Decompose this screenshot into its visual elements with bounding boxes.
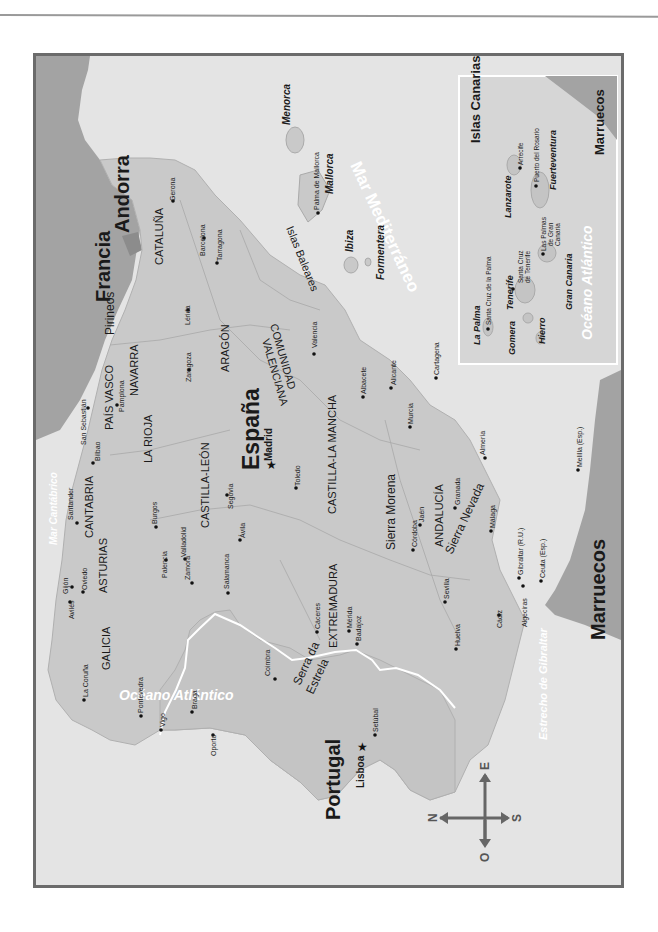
label-cantabria: CANTABRIA bbox=[83, 475, 95, 538]
label-tenerife: Tenerife bbox=[505, 275, 515, 310]
label-la-palma: La Palma bbox=[472, 305, 482, 345]
label-marruecos-inset: Marruecos bbox=[592, 89, 607, 155]
map-frame: ★ ★ Francia Andorra España Portugal Marr… bbox=[33, 53, 624, 888]
page-top-rule bbox=[0, 14, 658, 18]
compass-west-label: O bbox=[478, 853, 492, 862]
label-merida: Mérida bbox=[346, 606, 353, 628]
lisboa-star-icon: ★ bbox=[357, 740, 368, 754]
label-castilla-la-mancha: CASTILLA-LA MANCHA bbox=[326, 394, 338, 514]
label-jaen: Jaén bbox=[418, 507, 425, 522]
label-espana: España bbox=[238, 388, 264, 470]
label-barcelona: Barcelona bbox=[199, 224, 206, 256]
label-lisboa: Lisboa bbox=[355, 755, 366, 788]
label-sierra-morena: Sierra Morena bbox=[384, 474, 398, 550]
label-tarragona: Tarragona bbox=[216, 229, 224, 261]
label-melilla: Melilla (Esp.) bbox=[576, 427, 584, 467]
label-las-palmas-3: Canaria bbox=[554, 223, 561, 246]
label-pirineos: Pirineos bbox=[103, 292, 117, 335]
label-gibraltar: Gibraltar (R.U.) bbox=[517, 528, 525, 575]
label-coimbra: Coimbra bbox=[264, 649, 271, 676]
label-extremadura: EXTREMADURA bbox=[327, 563, 339, 648]
label-malaga: Málaga bbox=[489, 505, 497, 528]
label-arrecife: Arrecife bbox=[517, 142, 524, 165]
label-avila: Ávila bbox=[238, 523, 246, 538]
label-oceano-atlantico-inset: Océano Atlántico bbox=[579, 225, 595, 340]
inset-title: Islas Canarias bbox=[468, 56, 483, 143]
label-zamora: Zamora bbox=[184, 556, 191, 580]
label-portugal: Portugal bbox=[322, 739, 344, 820]
label-toledo: Toledo bbox=[294, 465, 301, 486]
label-zaragoza: Zaragoza bbox=[185, 352, 193, 382]
compass-east-label: E bbox=[478, 762, 492, 770]
label-huelva: Huelva bbox=[454, 624, 461, 646]
map-canvas: ★ ★ Francia Andorra España Portugal Marr… bbox=[36, 56, 621, 885]
label-albacete: Albacete bbox=[360, 367, 367, 394]
label-santa-cruz-palma: Santa Cruz de la Palma bbox=[485, 256, 492, 325]
label-marruecos: Marruecos bbox=[587, 539, 609, 640]
label-granada: Granada bbox=[454, 478, 461, 505]
label-castilla-leon: CASTILLA-LEÓN bbox=[199, 442, 211, 528]
label-oviedo: Oviedo bbox=[81, 568, 88, 590]
label-mar-cantabrico: Mar Cantábrico bbox=[48, 472, 59, 545]
label-estrecho-gibraltar: Estrecho de Gibraltar bbox=[537, 627, 549, 740]
compass-north-label: N bbox=[426, 813, 440, 822]
label-madrid: Madrid bbox=[263, 428, 274, 461]
formentera-island bbox=[365, 258, 371, 266]
label-la-coruna: La Coruña bbox=[82, 664, 89, 697]
label-valladolid: Valladolid bbox=[180, 527, 187, 557]
label-valencia: Valencia bbox=[311, 322, 318, 348]
label-mallorca: Mallorca bbox=[324, 153, 335, 194]
label-murcia: Murcia bbox=[407, 403, 414, 424]
label-lanzarote: Lanzarote bbox=[503, 175, 513, 218]
label-asturias: ASTURIAS bbox=[97, 538, 109, 593]
label-las-palmas-1: Las Palmas bbox=[540, 216, 547, 251]
label-vigo: Vigo bbox=[159, 713, 167, 727]
label-palma: Palma de Mallorca bbox=[313, 152, 320, 210]
label-pontevedra: Pontevedra bbox=[137, 677, 144, 713]
label-santa-cruz-tenerife-2: de Tenerife bbox=[524, 251, 531, 283]
label-navarra: NAVARRA bbox=[128, 344, 140, 396]
label-pamplona: Pamplona bbox=[118, 380, 126, 412]
label-hierro: Hierro bbox=[537, 317, 547, 344]
label-santander: Santander bbox=[67, 487, 74, 520]
label-cataluna: CATALUÑA bbox=[153, 207, 165, 265]
label-caceres: Cáceres bbox=[314, 602, 321, 629]
label-badajoz: Badajoz bbox=[355, 615, 363, 641]
label-algeciras: Algeciras bbox=[521, 598, 529, 627]
label-segovia: Segovia bbox=[227, 484, 235, 509]
label-ibiza: Ibiza bbox=[344, 229, 355, 252]
label-ceuta: Ceuta (Esp.) bbox=[539, 539, 547, 578]
label-burgos: Burgos bbox=[151, 501, 159, 524]
gomera-island bbox=[523, 313, 533, 323]
label-cordoba: Córdoba bbox=[411, 520, 418, 547]
label-fuerteventura: Fuerteventura bbox=[548, 130, 558, 190]
label-andorra: Andorra bbox=[111, 154, 133, 233]
label-setubal: Setúbal bbox=[372, 708, 379, 732]
label-salamanca: Salamanca bbox=[223, 554, 230, 589]
label-gerona: Gerona bbox=[169, 178, 176, 201]
label-alicante: Alicante bbox=[390, 360, 397, 385]
label-puerto-rosario: Puerto del Rosario bbox=[533, 128, 540, 182]
label-pais-vasco: PAÍS VASCO bbox=[103, 365, 115, 430]
label-las-palmas-2: de Gran bbox=[547, 222, 554, 246]
label-menorca: Menorca bbox=[281, 83, 292, 125]
menorca-island bbox=[286, 127, 304, 153]
label-oporto: Oporto bbox=[210, 734, 218, 756]
label-cartagena: Cartagena bbox=[433, 342, 441, 375]
label-gijon: Gijón bbox=[62, 578, 70, 594]
label-almeria: Almería bbox=[479, 431, 486, 455]
label-palencia: Palencia bbox=[161, 551, 168, 578]
label-aragon: ARAGÓN bbox=[219, 324, 231, 372]
label-formentera: Formentera bbox=[375, 225, 386, 280]
label-galicia: GALICIA bbox=[100, 626, 112, 670]
label-sevilla: Sevilla bbox=[443, 578, 450, 599]
ibiza-island bbox=[344, 257, 358, 273]
label-san-sebastian: San Sebastián bbox=[80, 399, 87, 445]
compass-south-label: S bbox=[510, 814, 524, 822]
label-gran-canaria: Gran Canaria bbox=[564, 253, 574, 310]
label-gomera: Gomera bbox=[507, 321, 517, 355]
label-lerida: Lérida bbox=[184, 305, 191, 325]
label-cadiz: Cádiz bbox=[496, 610, 503, 628]
label-la-rioja: LA RIOJA bbox=[142, 414, 154, 463]
label-francia: Francia bbox=[92, 230, 114, 302]
